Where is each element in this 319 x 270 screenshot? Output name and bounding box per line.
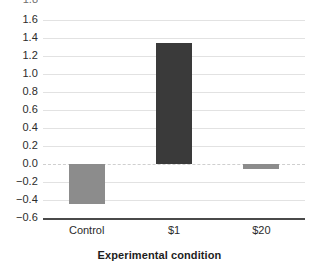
y-axis-tick-label: 1.2 xyxy=(4,50,38,61)
y-axis-tick-label: 0.8 xyxy=(4,86,38,97)
gridline xyxy=(43,20,305,21)
y-axis-tick-label: −0.2 xyxy=(4,176,38,187)
y-axis-tick-label: 0.2 xyxy=(4,140,38,151)
x-axis-line xyxy=(43,218,305,220)
y-axis-tick-label-clipped: 1.8 xyxy=(4,0,38,5)
y-axis-tick-label: −0.4 xyxy=(4,194,38,205)
x-axis-tick-label: Control xyxy=(42,224,132,236)
bar xyxy=(156,43,192,165)
bar xyxy=(69,164,105,204)
y-axis-tick-label: 0.4 xyxy=(4,122,38,133)
plot-area: Control$1$20 xyxy=(43,0,305,222)
y-axis-tick-label: −0.6 xyxy=(4,212,38,223)
x-axis-tick-label: $20 xyxy=(216,224,306,236)
x-axis-tick-label: $1 xyxy=(129,224,219,236)
y-axis-tick-label: 1.4 xyxy=(4,32,38,43)
y-axis-tick-label: 0.6 xyxy=(4,104,38,115)
y-axis-tick-label: 1.6 xyxy=(4,14,38,25)
x-axis-title: Experimental condition xyxy=(0,249,319,261)
bar-chart: 1.8 1.61.41.21.00.80.60.40.20.0−0.2−0.4−… xyxy=(0,0,319,270)
y-axis-tick-label: 0.0 xyxy=(4,158,38,169)
y-axis-tick-label: 1.0 xyxy=(4,68,38,79)
gridline xyxy=(43,38,305,39)
bar xyxy=(243,164,279,169)
